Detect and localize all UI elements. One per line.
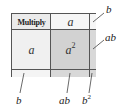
callout-top-right: b [106, 4, 112, 15]
callout-right-middle: ab [105, 32, 116, 43]
callout-bottom-middle: ab [59, 95, 70, 106]
callout-bottom-left: b [16, 95, 22, 106]
callout-bottom-right: b2 [82, 95, 91, 106]
